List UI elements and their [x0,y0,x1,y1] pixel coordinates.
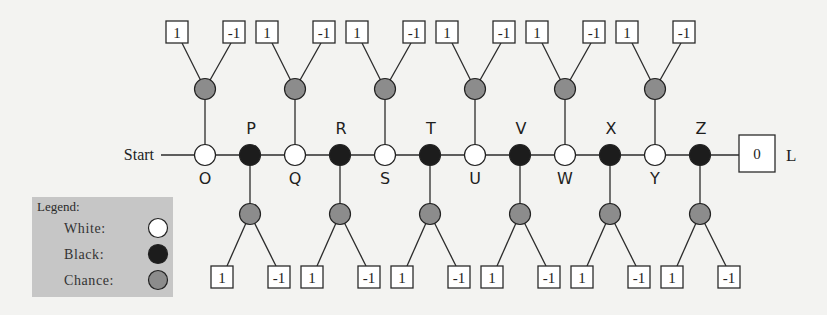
outcome-value: 1 [308,270,316,286]
outcome-value: -1 [273,270,286,286]
black-node [510,145,531,166]
chance-node [195,79,216,100]
outcome-value: -1 [363,270,376,286]
outcome-value: -1 [543,270,556,286]
legend-item-label: Chance: [64,273,114,288]
chance-node [285,79,306,100]
chance-node [555,79,576,100]
outcome-value: -1 [723,270,736,286]
outcome-value: -1 [408,25,421,41]
node-label: O [199,169,212,188]
node-label: U [469,169,481,188]
chance-node [510,204,531,225]
outcome-value: 1 [398,270,406,286]
legend-item-label: White: [64,221,106,236]
outcome-value: 1 [578,270,586,286]
node-label: Z [696,119,707,138]
outcome-value: 1 [668,270,676,286]
chance-node [330,204,351,225]
node-label: R [335,119,346,138]
white-node [645,145,666,166]
node-label: T [425,119,436,138]
node-label: V [516,119,527,138]
outcome-value: -1 [588,25,601,41]
start-label: Start [124,146,155,163]
chance-node [645,79,666,100]
legend-black-swatch-icon [149,245,168,264]
white-node [555,145,576,166]
outcome-value: 1 [488,270,496,286]
node-label: W [557,169,573,188]
node-label: S [380,169,390,188]
terminal-label: L [786,146,796,165]
black-node [420,145,441,166]
chance-node [600,204,621,225]
black-node [600,145,621,166]
outcome-value: -1 [633,270,646,286]
node-label: Q [289,169,302,188]
outcome-value: 1 [533,25,541,41]
black-node [330,145,351,166]
outcome-value: -1 [498,25,511,41]
legend-item-label: Black: [64,247,104,262]
chance-node [375,79,396,100]
white-node [375,145,396,166]
legend: Legend:White:Black:Chance: [32,197,173,297]
legend-chance-swatch-icon [149,271,168,290]
node-label: X [606,119,617,138]
chance-node [465,79,486,100]
game-tree-diagram: Start1-1O1-1P1-1Q1-1R1-1S1-1T1-1U1-1V1-1… [0,0,827,315]
node-label: P [246,119,256,138]
outcome-value: -1 [453,270,466,286]
chance-node [240,204,261,225]
outcome-value: 1 [353,25,361,41]
chance-node [690,204,711,225]
legend-white-swatch-icon [149,219,168,238]
legend-title: Legend: [37,199,80,214]
outcome-value: -1 [678,25,691,41]
outcome-value: 1 [263,25,271,41]
terminal-value: 0 [753,146,761,162]
outcome-value: 1 [173,25,181,41]
outcome-value: -1 [318,25,331,41]
white-node [465,145,486,166]
black-node [690,145,711,166]
chance-node [420,204,441,225]
white-node [195,145,216,166]
outcome-value: 1 [218,270,226,286]
white-node [285,145,306,166]
outcome-value: 1 [623,25,631,41]
outcome-value: -1 [228,25,241,41]
outcome-value: 1 [443,25,451,41]
black-node [240,145,261,166]
node-label: Y [649,169,660,188]
